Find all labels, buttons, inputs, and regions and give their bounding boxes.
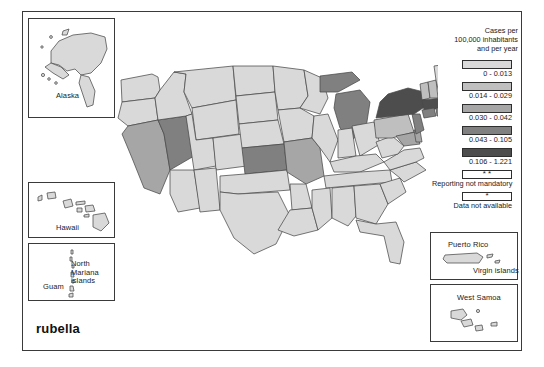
legend-swatch-1 [462,82,512,91]
area-alaska-island-6 [62,29,69,35]
legend-entry-3: 0.043 - 0.105 [432,126,518,144]
area-alaska-island-3 [55,82,58,85]
inset-label-west-samoa: West Samoa [457,293,501,302]
inset-puerto-rico: Puerto Rico Virgin islands [430,232,518,280]
legend-entry-6: * Data not available [432,192,518,210]
legend-swatch-6: * [462,192,512,201]
area-virgin-islands-1 [487,254,493,258]
state-oklahoma [220,170,290,194]
legend-title-line-3: and per year [432,44,518,53]
area-puerto-rico [443,253,483,263]
legend-entry-0: 0 - 0.013 [432,60,518,78]
inset-hawaii: Hawaii [28,182,115,238]
area-hawaii-kahoolawe [84,214,89,217]
legend-swatch-2 [462,104,512,113]
area-samoa-tutuila [475,325,483,331]
legend-label-2: 0.030 - 0.042 [432,113,512,122]
area-hawaii-lanai [77,208,82,212]
area-guam-south [69,293,73,297]
alaska-shape [29,19,114,117]
legend-swatch-5: * * [462,170,512,179]
area-hawaii-maui [85,205,95,212]
inset-label-hawaii: Hawaii [56,223,79,232]
legend-label-5: Reporting not mandatory [432,179,512,188]
area-alaska-panhandle [79,75,95,107]
state-alabama [332,186,356,226]
inset-alaska: Alaska [28,18,115,118]
legend-marker-5: * * [463,170,511,178]
legend-swatch-0 [462,60,512,69]
state-kansas [242,144,287,174]
area-hawaii-oahu [63,199,73,208]
us-mainland-map [108,58,438,298]
state-new-york [376,88,426,118]
inset-west-samoa: West Samoa [430,284,518,342]
legend-swatch-4 [462,148,512,157]
area-alaska-island-2 [48,78,51,81]
legend-title: Cases per 100,000 inhabitants and per ye… [432,26,518,54]
state-iowa [278,108,314,142]
area-alaska-island-1 [41,73,44,76]
area-samoa-islet-1 [476,309,479,312]
inset-label-puerto-rico: Puerto Rico [448,240,488,249]
state-arkansas [290,184,312,210]
legend-entry-2: 0.030 - 0.042 [432,104,518,122]
rubella-incidence-map-figure: Alaska Hawaii [0,0,544,367]
area-mariana-island-1 [71,250,73,254]
legend-marker-6: * [463,192,511,200]
area-virgin-islands-2 [495,260,500,263]
legend-label-0: 0 - 0.013 [432,69,512,78]
area-hawaii-niihau [38,195,42,201]
area-samoa-manua [491,322,497,326]
legend-label-3: 0.043 - 0.105 [432,135,512,144]
state-florida [356,220,404,264]
state-nebraska [239,120,284,148]
legend-label-6: Data not available [432,201,512,210]
area-hawaii-bigisland [93,213,109,231]
legend-label-4: 0.106 - 1.221 [432,157,512,166]
legend-swatch-3 [462,126,512,135]
map-legend: Cases per 100,000 inhabitants and per ye… [432,26,518,214]
inset-guam-mariana: North Mariana islands Guam [28,243,115,301]
area-guam [70,286,74,291]
area-hawaii-kauai [47,192,56,199]
area-samoa-upolu [461,319,473,327]
state-north-dakota [233,66,275,96]
inset-label-guam: Guam [43,282,64,291]
inset-label-virgin-islands: Virgin islands [473,266,519,275]
inset-label-north-mariana: North Mariana islands [71,260,115,286]
state-south-dakota [236,92,278,124]
inset-label-alaska: Alaska [56,91,79,100]
state-michigan-upper [320,72,360,92]
area-alaska-island-4 [50,36,53,39]
legend-entry-1: 0.014 - 0.029 [432,82,518,100]
legend-title-line-2: 100,000 inhabitants [432,35,518,44]
legend-entry-5: * * Reporting not mandatory [432,170,518,188]
legend-entry-4: 0.106 - 1.221 [432,148,518,166]
legend-label-1: 0.014 - 0.029 [432,91,512,100]
area-samoa-savaii [451,309,467,320]
area-hawaii-molokai [76,201,85,205]
map-title: rubella [36,321,80,336]
state-texas [220,192,290,254]
legend-title-line-1: Cases per [432,26,518,35]
area-alaska-island-5 [41,46,43,48]
